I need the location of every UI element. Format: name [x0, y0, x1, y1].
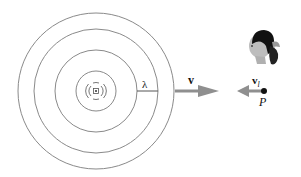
- wavelength-label: λ: [142, 79, 147, 90]
- listener-velocity-label: vl: [252, 75, 260, 89]
- listener-velocity-subscript: l: [258, 80, 260, 89]
- doppler-diagram: λ v vl P: [0, 0, 301, 177]
- point-p-label: P: [259, 96, 266, 108]
- listener-head-icon: [249, 30, 280, 64]
- point-p-dot: [261, 88, 267, 94]
- wave-velocity-label: v: [188, 74, 194, 86]
- sound-source-icon: [86, 82, 107, 99]
- wave-velocity-arrow: [175, 85, 219, 97]
